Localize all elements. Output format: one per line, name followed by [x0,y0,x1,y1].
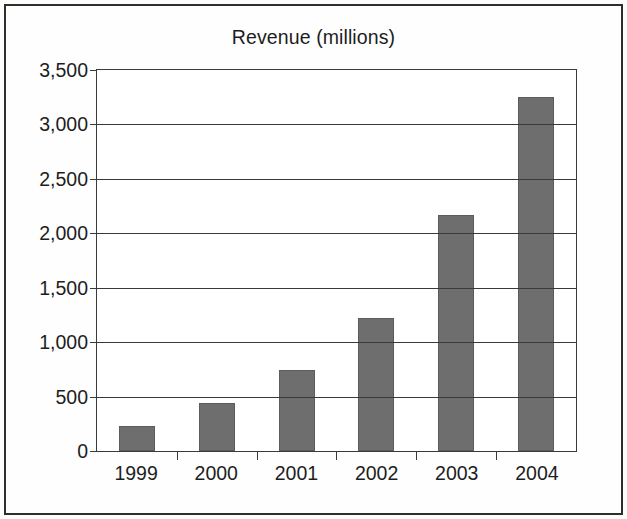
y-axis-tick-mark [90,124,97,125]
chart-title: Revenue (millions) [0,26,627,49]
y-axis-tick-label: 0 [77,440,88,463]
x-axis-label-2002: 2002 [337,462,417,485]
bar-slot [97,70,177,451]
chart-figure: Revenue (millions) 05001,0001,5002,0002,… [0,0,627,519]
gridline [97,124,576,125]
x-axis-label-2003: 2003 [417,462,497,485]
bar-slot [496,70,576,451]
x-axis-label-2004: 2004 [497,462,577,485]
x-axis-tick-mark [257,451,258,460]
bar-1999[interactable] [119,426,155,451]
gridline [97,179,576,180]
bar-slot [336,70,416,451]
bar-2000[interactable] [199,403,235,451]
y-axis-tick-label: 3,000 [39,113,88,136]
y-axis-tick-mark [90,179,97,180]
gridline [97,233,576,234]
bar-2001[interactable] [279,370,315,451]
gridline [97,397,576,398]
bar-2004[interactable] [518,97,554,451]
bar-slot [416,70,496,451]
y-axis-tick-mark [90,70,97,71]
y-axis-tick-mark [90,288,97,289]
y-axis-tick-mark [90,451,97,452]
plot-area: 05001,0001,5002,0002,5003,0003,500 [96,69,577,452]
y-axis-tick-mark [90,342,97,343]
x-axis-labels: 199920002001200220032004 [96,462,577,485]
bar-2002[interactable] [358,318,394,451]
gridline [97,288,576,289]
x-axis-tick-mark [416,451,417,460]
x-axis-label-2000: 2000 [176,462,256,485]
y-axis-tick-label: 2,000 [39,222,88,245]
bars-layer [97,70,576,451]
y-axis-tick-label: 500 [55,385,88,408]
y-axis-tick-label: 1,000 [39,331,88,354]
bar-2003[interactable] [438,215,474,451]
bar-slot [257,70,337,451]
y-axis-tick-label: 2,500 [39,167,88,190]
gridline [97,342,576,343]
y-axis-tick-label: 1,500 [39,276,88,299]
x-axis-tick-mark [336,451,337,460]
y-axis-tick-label: 3,500 [39,59,88,82]
x-axis-tick-mark [496,451,497,460]
x-axis-tick-mark [177,451,178,460]
x-axis-label-2001: 2001 [256,462,336,485]
bar-slot [177,70,257,451]
x-axis-label-1999: 1999 [96,462,176,485]
y-axis-tick-mark [90,397,97,398]
y-axis-tick-mark [90,233,97,234]
